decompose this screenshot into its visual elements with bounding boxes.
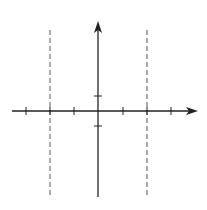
axes xyxy=(12,21,198,197)
csc-graph xyxy=(0,0,207,210)
